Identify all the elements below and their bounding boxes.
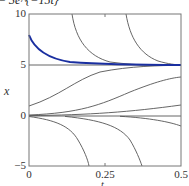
axes-box <box>29 14 181 166</box>
solution-curve <box>29 117 89 167</box>
solution-curve <box>65 116 142 166</box>
solution-curve <box>29 65 181 106</box>
solution-curve <box>120 116 181 126</box>
solution-curve <box>72 14 181 65</box>
solution-curve <box>126 14 181 65</box>
plot-area <box>0 0 189 186</box>
solution-curve <box>29 105 181 116</box>
